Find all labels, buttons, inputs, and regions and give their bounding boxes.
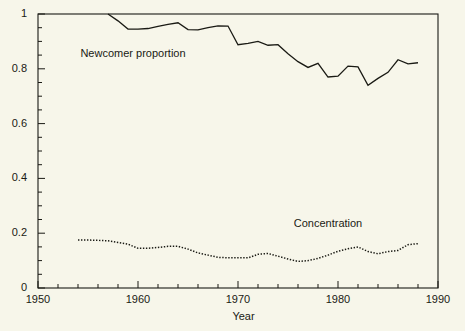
series-annotation-newcomer-proportion: Newcomer proportion (80, 47, 185, 59)
y-axis-minor-ticks (38, 28, 42, 275)
y-axis-tick-label: 0.4 (0, 171, 27, 183)
x-axis-title: Year (0, 310, 465, 322)
x-axis-tick-label: 1970 (208, 293, 268, 305)
y-axis-tick-label: 0.8 (0, 62, 27, 74)
y-axis-tick-label: 0 (0, 281, 27, 293)
chart-plot-svg (0, 0, 465, 331)
x-axis-tick-label: 1950 (8, 293, 68, 305)
y-axis-tick-label: 0.2 (0, 226, 27, 238)
x-axis-tick-label: 1980 (308, 293, 368, 305)
chart-container: 00.20.40.60.81 19501960197019801990 Newc… (0, 0, 465, 331)
y-axis-tick-label: 1 (0, 7, 27, 19)
x-axis-tick-label: 1960 (108, 293, 168, 305)
series-annotation-concentration: Concentration (294, 217, 363, 229)
y-axis-tick-label: 0.6 (0, 117, 27, 129)
x-axis-tick-label: 1990 (408, 293, 465, 305)
series-line-concentration (78, 240, 418, 261)
